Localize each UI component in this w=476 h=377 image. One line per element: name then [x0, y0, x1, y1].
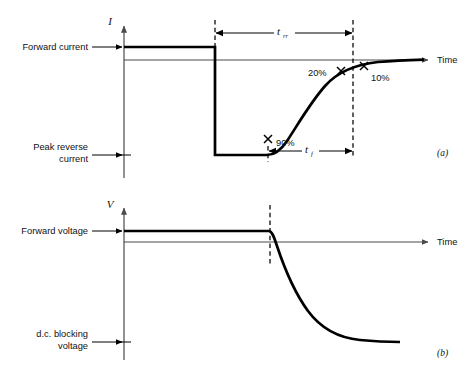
panel-b: V Time Forward voltage d.c. blocking vol… [21, 198, 457, 360]
panel-a-x-axis-label: Time [437, 55, 457, 65]
panel-b-y-axis-label: V [107, 198, 115, 210]
panel-a: I Time Forward current Peak reverse curr… [22, 15, 457, 178]
panel-a-trr-subscript: rr [283, 32, 289, 39]
panel-a-marker-90pct [264, 135, 272, 143]
panel-a-y-axis-label: I [107, 15, 113, 27]
panel-a-20-percent-label: 20% [308, 68, 327, 78]
figure-canvas: I Time Forward current Peak reverse curr… [0, 0, 476, 377]
panel-b-dc-blocking-label-line1: d.c. blocking [36, 329, 88, 339]
panel-a-10-percent-label: 10% [371, 73, 390, 83]
panel-a-peak-reverse-label-line1: Peak reverse [33, 142, 88, 152]
panel-b-voltage-waveform [124, 231, 400, 342]
diode-recovery-figure: I Time Forward current Peak reverse curr… [0, 0, 476, 377]
panel-b-dc-blocking-label-line2: voltage [58, 341, 88, 351]
panel-a-trr-label: t rr [274, 24, 295, 39]
panel-a-tf-label: t f [302, 142, 319, 157]
panel-a-current-waveform [124, 47, 424, 155]
panel-a-90-percent-label: 90% [276, 138, 295, 148]
panel-b-forward-voltage-label: Forward voltage [21, 226, 88, 236]
panel-b-x-axis-label: Time [437, 237, 457, 247]
panel-a-label: (a) [437, 148, 448, 159]
panel-b-label: (b) [437, 348, 448, 359]
panel-a-forward-current-label: Forward current [22, 42, 88, 52]
panel-a-peak-reverse-label-line2: current [59, 154, 88, 164]
